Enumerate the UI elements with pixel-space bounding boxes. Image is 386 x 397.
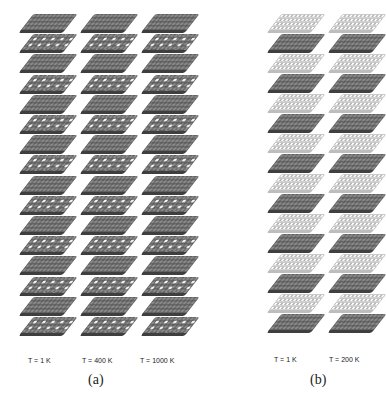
- atomic-layer: [328, 34, 386, 53]
- atomic-layer: [328, 194, 386, 213]
- atomic-layer: [141, 297, 200, 316]
- atomic-layer: [328, 114, 386, 133]
- atomic-layer: [19, 135, 78, 154]
- atomic-layer: [267, 134, 326, 153]
- atomic-layer: [328, 74, 386, 93]
- atomic-layer: [141, 196, 200, 215]
- atomic-layer: [141, 54, 200, 73]
- atomic-layer: [267, 254, 326, 273]
- atomic-layer: [328, 174, 386, 193]
- atomic-layer: [328, 314, 386, 333]
- atomic-layer: [141, 34, 200, 53]
- atomic-layer: [80, 14, 139, 33]
- atomic-layer: [80, 297, 139, 316]
- atomic-layer: [19, 75, 78, 94]
- atomic-layer: [328, 94, 386, 113]
- atomic-layer: [19, 317, 78, 336]
- atomic-layer: [80, 196, 139, 215]
- atomic-layer: [80, 75, 139, 94]
- atomic-layer: [141, 95, 200, 114]
- atomic-layer: [328, 134, 386, 153]
- atomic-layer: [267, 54, 326, 73]
- temperature-label: T = 200 K: [329, 356, 359, 363]
- atomic-layer: [267, 154, 326, 173]
- atomic-layer: [267, 74, 326, 93]
- atomic-layer: [80, 135, 139, 154]
- temperature-label: T = 1 K: [274, 356, 297, 363]
- atomic-layer: [141, 135, 200, 154]
- atomic-layer: [80, 236, 139, 255]
- atomic-layer: [141, 216, 200, 235]
- atomic-layer: [328, 154, 386, 173]
- temperature-label: T = 1000 K: [140, 357, 174, 364]
- atomic-layer: [19, 297, 78, 316]
- atomic-layer: [141, 317, 200, 336]
- atomic-layer: [80, 256, 139, 275]
- atomic-layer: [267, 174, 326, 193]
- atomic-layer: [80, 95, 139, 114]
- atomic-layer: [267, 274, 326, 293]
- atomic-layer: [19, 196, 78, 215]
- atomic-layer: [267, 234, 326, 253]
- atomic-layer: [141, 277, 200, 296]
- atomic-layer: [19, 256, 78, 275]
- atomic-layer: [267, 194, 326, 213]
- atomic-layer: [328, 214, 386, 233]
- atomic-layer: [328, 234, 386, 253]
- panel-b: T = 1 K T = 200 K (b): [230, 0, 386, 397]
- atomic-layer: [80, 317, 139, 336]
- atomic-layer: [19, 176, 78, 195]
- atomic-layer: [19, 115, 78, 134]
- atomic-layer: [19, 277, 78, 296]
- atomic-layer: [328, 294, 386, 313]
- panel-a: T = 1 K T = 400 K T = 1000 K (a): [0, 0, 200, 397]
- atomic-layer: [267, 34, 326, 53]
- atomic-layer: [80, 115, 139, 134]
- atomic-layer: [141, 14, 200, 33]
- panel-label: (b): [310, 372, 326, 388]
- atomic-layer: [19, 14, 78, 33]
- atomic-layer: [141, 236, 200, 255]
- atomic-layer: [141, 256, 200, 275]
- atomic-layer: [80, 176, 139, 195]
- atomic-layer: [267, 94, 326, 113]
- atomic-layer: [141, 75, 200, 94]
- atomic-layer: [80, 54, 139, 73]
- atomic-layer: [267, 214, 326, 233]
- atomic-layer: [328, 254, 386, 273]
- atomic-layer: [267, 294, 326, 313]
- atomic-layer: [328, 274, 386, 293]
- atomic-layer: [141, 115, 200, 134]
- atomic-layer: [80, 155, 139, 174]
- atomic-layer: [19, 34, 78, 53]
- temperature-label: T = 1 K: [28, 357, 51, 364]
- temperature-label: T = 400 K: [82, 357, 112, 364]
- atomic-layer: [19, 155, 78, 174]
- atomic-layer: [19, 54, 78, 73]
- atomic-layer: [328, 14, 386, 33]
- atomic-layer: [328, 54, 386, 73]
- atomic-layer: [19, 216, 78, 235]
- atomic-layer: [267, 114, 326, 133]
- atomic-layer: [141, 155, 200, 174]
- atomic-layer: [19, 95, 78, 114]
- atomic-layer: [80, 277, 139, 296]
- atomic-layer: [141, 176, 200, 195]
- atomic-layer: [19, 236, 78, 255]
- atomic-layer: [267, 314, 326, 333]
- atomic-layer: [80, 216, 139, 235]
- panel-label: (a): [88, 372, 104, 388]
- atomic-layer: [80, 34, 139, 53]
- atomic-layer: [267, 14, 326, 33]
